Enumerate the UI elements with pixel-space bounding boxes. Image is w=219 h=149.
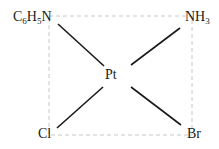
- bond-bottom-right: [131, 87, 181, 125]
- ligand-chloride-label: Cl: [38, 127, 51, 141]
- bond-bottom-left: [57, 87, 103, 128]
- pt-complex-diagram: C6H5N NH3 Pt Cl Br: [0, 0, 219, 149]
- bond-top-right: [131, 28, 180, 65]
- central-atom-pt-label: Pt: [105, 68, 117, 82]
- ligand-pyridine-label: C6H5N: [13, 10, 52, 24]
- ligand-bromide-label: Br: [187, 127, 201, 141]
- ligand-ammonia-label: NH3: [185, 10, 210, 24]
- bond-top-left: [58, 24, 104, 66]
